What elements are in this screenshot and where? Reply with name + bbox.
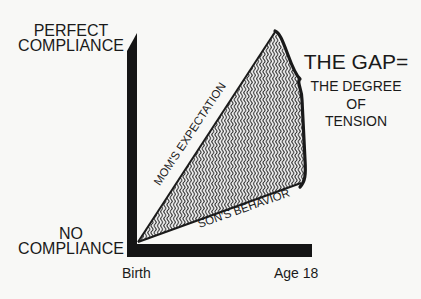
gap-sub-line-3: TENSION: [300, 114, 412, 132]
gap-sub-line-1: THE DEGREE: [300, 79, 412, 97]
gap-annotation-subtitle: THE DEGREE OF TENSION: [300, 79, 412, 132]
y-axis-bottom-label: NO COMPLIANCE: [12, 226, 130, 256]
y-top-line-2: COMPLIANCE: [12, 38, 130, 53]
y-bottom-line-1: NO: [12, 226, 130, 241]
y-bottom-line-2: COMPLIANCE: [12, 241, 130, 256]
gap-annotation-title: THE GAP=: [300, 51, 412, 72]
y-axis-top-label: PERFECT COMPLIANCE: [12, 23, 130, 53]
tension-gap-diagram: MOM'S EXPECTATION SON'S BEHAVIOR PERFECT…: [0, 0, 421, 299]
y-top-line-1: PERFECT: [12, 23, 130, 38]
gap-sub-line-2: OF: [300, 97, 412, 115]
x-axis-start-label: Birth: [122, 266, 151, 280]
x-axis-end-label: Age 18: [274, 266, 318, 280]
y-axis: [127, 33, 137, 257]
x-axis: [127, 244, 312, 257]
